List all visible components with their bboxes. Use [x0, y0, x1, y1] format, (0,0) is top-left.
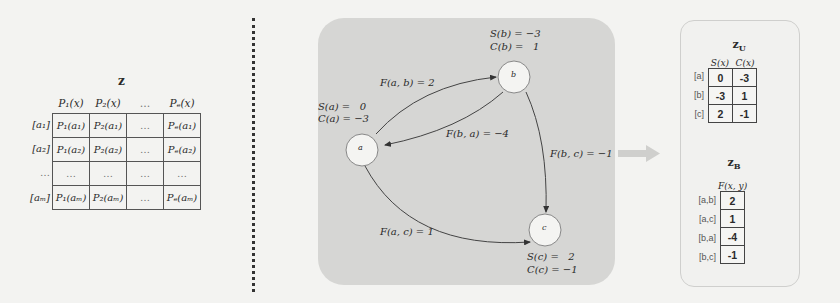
table-zb-row-label: [a,c] [690, 214, 716, 224]
node-b-c-value: C(b) = 1 [490, 41, 539, 52]
table-zb-cell: 1 [721, 210, 745, 228]
table-zb-col-header: F(x, y) [718, 181, 747, 191]
edge-bc [526, 92, 546, 212]
table-zb-row-label: [b,c] [690, 252, 716, 262]
table-zb-cell: -1 [721, 246, 745, 264]
table-zu-col-header: C(x) [733, 58, 757, 68]
node-b-label: b [511, 70, 516, 79]
table-zb-row: -4 [721, 228, 745, 246]
table-zu-cell: 0 [709, 69, 733, 87]
edge-ac-label: F(a, c) = 1 [380, 226, 434, 237]
table-zb-cell: 2 [721, 192, 745, 210]
table-zu-col-header: S(x) [708, 58, 732, 68]
table-zu-row: -3 1 [709, 87, 757, 105]
table-zu-title-subscript: U [739, 43, 746, 53]
table-zu-row-label: [b] [682, 90, 704, 100]
table-zb-cell: -4 [721, 228, 745, 246]
node-a-label: a [358, 143, 363, 152]
table-zb-row-label: [a,b] [690, 195, 716, 205]
node-c-s-value: S(c) = 2 [527, 251, 575, 262]
table-zu: 0 -3 -3 1 2 -1 [708, 68, 757, 123]
edge-bc-label: F(b, c) = −1 [550, 148, 613, 159]
node-b-s-value: S(b) = −3 [490, 28, 541, 39]
table-zu-row-label: [a] [682, 71, 704, 81]
table-zu-cell: -3 [709, 87, 733, 105]
node-c-c-value: C(c) = −1 [527, 264, 578, 275]
table-zb-title-subscript: B [734, 161, 741, 171]
table-zu-cell: 1 [733, 87, 757, 105]
table-zb-title: zB [704, 156, 764, 171]
table-zu-cell: 2 [709, 105, 733, 123]
right-arrow-icon [618, 144, 662, 164]
table-zu-cell: -1 [733, 105, 757, 123]
table-zu-cell: -3 [733, 69, 757, 87]
edge-ab-label: F(a, b) = 2 [380, 77, 435, 88]
node-c-label: c [542, 223, 546, 232]
table-zb-row: 2 [721, 192, 745, 210]
node-a-c-value: C(a) = −3 [318, 113, 369, 124]
table-zu-row: 0 -3 [709, 69, 757, 87]
table-zu-title: zU [709, 38, 769, 53]
table-zb-row: -1 [721, 246, 745, 264]
table-zb-row: 1 [721, 210, 745, 228]
table-zu-row: 2 -1 [709, 105, 757, 123]
node-a-s-value: S(a) = 0 [318, 101, 366, 112]
table-zb: 2 1 -4 -1 [720, 191, 745, 264]
table-zu-row-label: [c] [682, 109, 704, 119]
table-zb-row-label: [b,a] [690, 233, 716, 243]
edge-ba-label: F(b, a) = −4 [446, 128, 509, 139]
